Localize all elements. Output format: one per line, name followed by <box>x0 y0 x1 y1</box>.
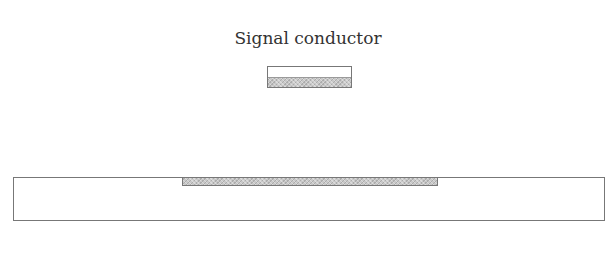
signal-conductor-label: Signal conductor <box>0 28 616 48</box>
signal-conductor <box>267 66 352 88</box>
signal-conductor-hatched-layer <box>268 77 351 87</box>
ground-strip <box>182 177 438 186</box>
